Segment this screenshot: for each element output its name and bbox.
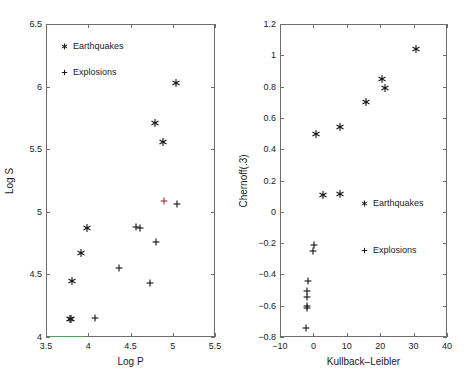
y-ticklabel-right: 0.8	[238, 82, 276, 91]
panel-left-logp-logs: 44.555.566.53.544.555.5Log PLog SEarthqu…	[0, 0, 235, 381]
data-point-plus-marker	[171, 198, 183, 210]
x-ticklabel-left: 5.5	[209, 342, 222, 351]
legend-entry-earthquakes: Earthquakes	[360, 199, 424, 208]
data-point-star-marker	[75, 247, 87, 259]
baseline-overlay-segment	[49, 336, 84, 337]
x-tick-mirror-left	[215, 24, 216, 28]
y-tick-left	[46, 149, 50, 150]
y-tick-mirror-right	[443, 212, 447, 213]
x-ticklabel-right: 0	[311, 342, 316, 351]
x-ticklabel-right: 10	[342, 342, 352, 351]
y-tick-left	[46, 212, 50, 213]
x-tick-right	[414, 333, 415, 337]
x-tick-mirror-left	[46, 24, 47, 28]
x-tick-right	[380, 333, 381, 337]
data-point-plus-marker	[307, 245, 319, 257]
data-point-star-marker	[81, 222, 93, 234]
y-ticklabel-left: 4.5	[4, 270, 42, 279]
y-tick-mirror-right	[443, 149, 447, 150]
y-ticklabel-right: 0.6	[238, 113, 276, 122]
data-point-star-marker	[66, 275, 78, 287]
y-tick-right	[280, 337, 284, 338]
panel-right-kl-chernoff: −0.8−0.6−0.4−0.200.20.40.60.811.2−100102…	[235, 0, 469, 381]
data-point-star-marker	[379, 82, 391, 94]
y-ticklabel-left: 6	[4, 82, 42, 91]
y-tick-mirror-right	[443, 118, 447, 119]
plus-marker	[60, 68, 69, 77]
y-tick-mirror-left	[211, 212, 215, 213]
x-ticklabel-left: 4	[86, 342, 91, 351]
y-ticklabel-left: 4	[4, 333, 42, 342]
x-tick-left	[215, 333, 216, 337]
y-tick-mirror-right	[443, 181, 447, 182]
x-tick-mirror-right	[414, 24, 415, 28]
data-point-plus-marker	[113, 262, 125, 274]
x-tick-mirror-right	[380, 24, 381, 28]
y-tick-mirror-left	[211, 149, 215, 150]
y-tick-mirror-left	[211, 274, 215, 275]
y-tick-right	[280, 181, 284, 182]
y-tick-mirror-right	[443, 243, 447, 244]
data-point-plus-marker	[144, 277, 156, 289]
legend-label: Earthquakes	[373, 199, 424, 208]
x-tick-right	[313, 333, 314, 337]
plus-marker	[360, 246, 369, 255]
y-tick-right	[280, 87, 284, 88]
y-ticklabel-right: −0.2	[238, 239, 276, 248]
x-ticklabel-right: 30	[409, 342, 419, 351]
x-ticklabel-right: −10	[272, 342, 287, 351]
data-point-star-marker	[334, 121, 346, 133]
x-tick-mirror-right	[447, 24, 448, 28]
x-ticklabel-left: 3.5	[40, 342, 53, 351]
x-ticklabel-right: 20	[375, 342, 385, 351]
x-tick-mirror-right	[280, 24, 281, 28]
x-tick-left	[46, 333, 47, 337]
legend-entry-explosions: Explosions	[60, 68, 117, 77]
y-tick-mirror-right	[443, 337, 447, 338]
y-tick-right	[280, 306, 284, 307]
y-tick-mirror-right	[443, 306, 447, 307]
x-tick-right	[280, 333, 281, 337]
figure-root: 44.555.566.53.544.555.5Log PLog SEarthqu…	[0, 0, 469, 381]
data-point-plus-marker	[158, 195, 170, 207]
data-point-plus-marker	[300, 322, 312, 334]
x-tick-left	[131, 333, 132, 337]
x-tick-mirror-right	[313, 24, 314, 28]
x-tick-mirror-right	[347, 24, 348, 28]
data-point-plus-marker	[89, 312, 101, 324]
x-tick-mirror-left	[131, 24, 132, 28]
y-axis-title-left: Log S	[5, 141, 15, 221]
data-point-star-marker	[157, 136, 169, 148]
legend-entry-explosions: Explosions	[360, 246, 417, 255]
data-point-star-marker	[170, 77, 182, 89]
y-ticklabel-left: 6.5	[4, 20, 42, 29]
y-axis-title-right: Chernoff(.3)	[239, 141, 249, 221]
x-tick-left	[173, 333, 174, 337]
y-tick-mirror-left	[211, 337, 215, 338]
y-ticklabel-right: 1.2	[238, 20, 276, 29]
data-point-plus-marker	[301, 302, 313, 314]
y-tick-mirror-right	[443, 274, 447, 275]
y-tick-right	[280, 243, 284, 244]
y-tick-mirror-right	[443, 87, 447, 88]
data-point-star-marker	[334, 188, 346, 200]
legend-entry-earthquakes: Earthquakes	[60, 42, 124, 51]
y-ticklabel-right: −0.6	[238, 301, 276, 310]
x-ticklabel-left: 5	[170, 342, 175, 351]
y-tick-right	[280, 55, 284, 56]
data-point-plus-marker	[150, 236, 162, 248]
data-point-star-marker	[317, 189, 329, 201]
y-ticklabel-right: −0.8	[238, 333, 276, 342]
y-tick-mirror-right	[443, 55, 447, 56]
y-ticklabel-right: −0.4	[238, 270, 276, 279]
x-tick-right	[347, 333, 348, 337]
y-tick-right	[280, 118, 284, 119]
data-point-star-marker	[360, 96, 372, 108]
x-tick-left	[88, 333, 89, 337]
y-tick-left	[46, 337, 50, 338]
x-axis-title-left: Log P	[117, 357, 143, 367]
x-tick-mirror-left	[173, 24, 174, 28]
x-tick-right	[447, 333, 448, 337]
star-marker	[360, 199, 369, 208]
data-point-star-marker	[149, 117, 161, 129]
